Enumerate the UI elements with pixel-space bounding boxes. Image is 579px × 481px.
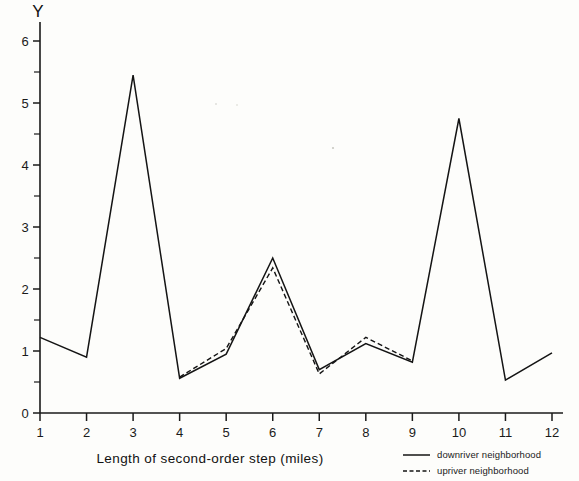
y-tick-label: 6 xyxy=(21,34,28,49)
legend-label-downriver: downriver neighborhood xyxy=(437,449,541,460)
x-tick-label: 7 xyxy=(316,425,323,440)
legend-label-upriver: upriver neighborhood xyxy=(437,465,529,476)
y-tick-label: 4 xyxy=(21,158,28,173)
x-tick-label: 9 xyxy=(409,425,416,440)
chart-page: 0123456 Y 123456789101112 Length of seco… xyxy=(0,0,579,481)
data-series xyxy=(40,75,552,380)
x-tick-label: 3 xyxy=(129,425,136,440)
x-tick-label: 12 xyxy=(545,425,559,440)
x-tick-label: 11 xyxy=(499,425,513,440)
y-axis: 0123456 Y xyxy=(21,2,43,421)
y-axis-title: Y xyxy=(32,2,43,21)
x-tick-label: 8 xyxy=(362,425,369,440)
x-tick-label: 10 xyxy=(452,425,466,440)
y-tick-label: 2 xyxy=(21,282,28,297)
y-tick-label: 3 xyxy=(21,220,28,235)
x-tick-label: 5 xyxy=(223,425,230,440)
x-axis-title: Length of second-order step (miles) xyxy=(96,451,323,466)
legend: downriver neighborhood upriver neighborh… xyxy=(403,449,541,476)
y-tick-label: 0 xyxy=(21,406,28,421)
y-tick-label: 1 xyxy=(21,344,28,359)
scan-artifacts xyxy=(215,103,334,149)
line-chart: 0123456 Y 123456789101112 Length of seco… xyxy=(0,0,579,481)
x-tick-label: 6 xyxy=(269,425,276,440)
x-tick-label: 2 xyxy=(83,425,90,440)
y-tick-label: 5 xyxy=(21,96,28,111)
series-downriver-neighborhood xyxy=(40,75,552,380)
x-tick-label: 4 xyxy=(176,425,183,440)
x-tick-label: 1 xyxy=(36,425,43,440)
